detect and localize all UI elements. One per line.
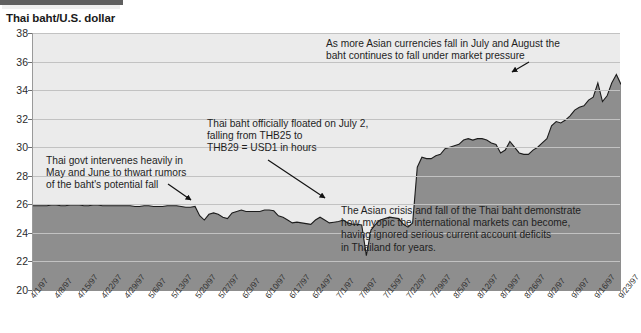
x-axis-tick-mark xyxy=(573,290,574,293)
gridline xyxy=(33,33,620,34)
annotation-govt-intervenes: Thai govt intervenes heavily in May and … xyxy=(46,155,186,192)
x-axis-tick-mark xyxy=(361,290,362,293)
x-axis-tick-mark xyxy=(338,290,339,293)
annotation-asian-crisis: The Asian crisis and fall of the Thai ba… xyxy=(341,205,581,254)
annotation-asian-currencies: As more Asian currencies fall in July an… xyxy=(326,38,560,62)
y-axis-tick-label: 26 xyxy=(2,198,28,210)
top-edge-artifact-light xyxy=(2,5,120,9)
y-axis-tick-label: 36 xyxy=(2,56,28,68)
gridline xyxy=(33,261,620,262)
x-axis-tick-mark xyxy=(314,290,315,293)
y-axis: 20222426283032343638 xyxy=(0,33,28,290)
x-axis-tick-mark xyxy=(479,290,480,293)
x-axis-tick-mark xyxy=(197,290,198,293)
y-axis-tick-label: 30 xyxy=(2,141,28,153)
x-axis-labels: 4/1/974/8/974/15/974/22/974/29/975/6/975… xyxy=(0,292,633,333)
x-axis-tick-mark xyxy=(385,290,386,293)
chart-title: Thai baht/U.S. dollar xyxy=(6,12,115,24)
annotation-baht-floated: Thai baht officially floated on July 2, … xyxy=(207,118,368,155)
y-axis-tick-label: 24 xyxy=(2,227,28,239)
x-axis-tick-mark xyxy=(291,290,292,293)
x-axis-tick-mark xyxy=(32,290,33,293)
y-axis-tick-label: 32 xyxy=(2,113,28,125)
x-axis-tick-mark xyxy=(150,290,151,293)
x-axis-tick-mark xyxy=(79,290,80,293)
x-axis-tick-mark xyxy=(267,290,268,293)
x-axis-tick-mark xyxy=(526,290,527,293)
y-axis-tick-label: 38 xyxy=(2,27,28,39)
gridline xyxy=(33,90,620,91)
x-axis-tick-mark xyxy=(596,290,597,293)
x-axis-tick-mark xyxy=(220,290,221,293)
x-axis-tick-mark xyxy=(173,290,174,293)
x-axis-tick-mark xyxy=(455,290,456,293)
x-axis-tick-mark xyxy=(126,290,127,293)
x-axis-tick-mark xyxy=(549,290,550,293)
x-axis-tick-mark xyxy=(103,290,104,293)
x-axis-tick-mark xyxy=(620,290,621,293)
x-axis-tick-mark xyxy=(56,290,57,293)
x-axis-tick-mark xyxy=(432,290,433,293)
y-axis-tick-label: 28 xyxy=(2,170,28,182)
y-axis-tick-label: 34 xyxy=(2,84,28,96)
x-axis-tick-mark xyxy=(408,290,409,293)
y-axis-tick-label: 22 xyxy=(2,255,28,267)
x-axis-tick-mark xyxy=(502,290,503,293)
x-axis-tick-mark xyxy=(244,290,245,293)
